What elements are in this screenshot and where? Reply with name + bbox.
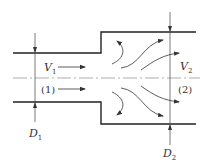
upper-streamlines — [112, 40, 179, 70]
d1-label: D1 — [28, 127, 42, 142]
upper-pipe-wall — [13, 32, 196, 53]
lower-streamlines — [112, 86, 179, 116]
d2-label: D2 — [162, 147, 176, 162]
v2-label: V2 — [180, 60, 192, 75]
sudden-expansion-diagram: V1 (1) V2 (2) D1 D2 — [0, 0, 210, 167]
section2-label: (2) — [178, 84, 192, 95]
section1-label: (1) — [41, 84, 55, 95]
lower-pipe-wall — [13, 102, 196, 124]
v1-label: V1 — [44, 61, 56, 76]
